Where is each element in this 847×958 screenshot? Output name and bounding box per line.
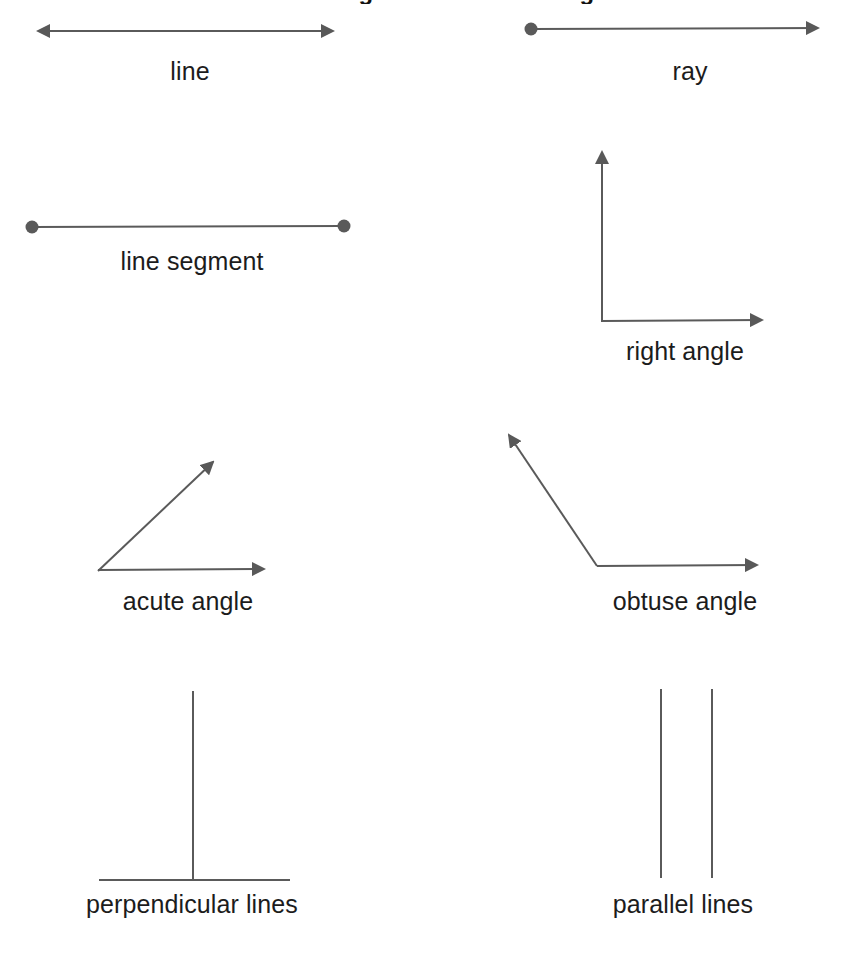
label-right-angle: right angle <box>626 337 744 366</box>
figure-acute-angle <box>98 462 264 571</box>
acute-angle-diagonal-ray <box>98 462 213 571</box>
label-line-segment: line segment <box>121 247 264 276</box>
label-acute-angle: acute angle <box>123 587 253 616</box>
acute-angle-horizontal-ray <box>98 569 264 570</box>
obtuse-angle-horizontal-ray <box>597 565 757 566</box>
figure-ray <box>525 23 819 36</box>
figure-canvas <box>0 0 847 958</box>
right-angle-horizontal-ray <box>602 320 762 321</box>
line-segment-shaft <box>32 226 344 227</box>
label-obtuse-angle: obtuse angle <box>613 587 757 616</box>
ray-endpoint-dot <box>525 23 538 36</box>
label-parallel-lines: parallel lines <box>613 890 753 919</box>
obtuse-angle-diagonal-ray <box>509 435 597 566</box>
figure-line-segment <box>26 220 351 234</box>
ray-shaft <box>531 28 818 29</box>
label-perpendicular-lines: perpendicular lines <box>86 890 298 919</box>
figure-perpendicular-lines <box>99 691 290 880</box>
figure-parallel-lines <box>661 689 712 878</box>
label-ray: ray <box>672 57 707 86</box>
figure-obtuse-angle <box>509 435 757 566</box>
figure-right-angle <box>602 152 762 322</box>
line-segment-endpoint-dot-left <box>26 221 39 234</box>
line-segment-endpoint-dot-right <box>338 220 351 233</box>
label-line: line <box>170 57 209 86</box>
geometry-terms-diagram: Lines and Angles Worksheet Diagram <box>0 0 847 958</box>
